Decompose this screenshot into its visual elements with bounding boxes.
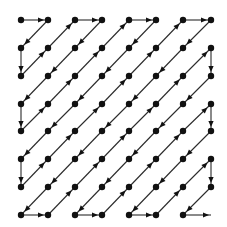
grid-point [72,156,78,162]
arrow-head-icon [201,17,207,22]
grid-point [126,128,132,134]
grid-point [126,184,132,190]
grid-point [99,45,105,51]
grid-point [126,212,132,218]
grid-point [99,73,105,79]
grid-point [45,184,51,190]
grid-point [126,73,132,79]
arrow-head-icon [38,212,44,217]
grid-point [180,101,186,107]
grid-point [180,212,186,218]
grid-point [208,156,214,162]
grid-point [208,101,214,107]
arrow-head-icon [208,121,213,127]
arrow-head-icon [18,66,23,72]
grid-point [72,101,78,107]
grid-point [153,17,159,23]
grid-point [208,45,214,51]
grid-point [126,101,132,107]
grid-point [72,73,78,79]
grid-point [45,212,51,218]
grid-point [208,184,214,190]
grid-point [18,45,24,51]
arrow-head-icon [18,177,23,183]
grid-point [72,45,78,51]
grid-point [45,156,51,162]
grid-point [126,45,132,51]
arrow-head-icon [146,212,152,217]
grid-point [72,128,78,134]
grid-point [153,184,159,190]
zigzag-scan-diagram: Zigzag scan order (8x8 grid) [0,0,227,227]
grid-point [45,17,51,23]
arrow-head-icon [146,17,152,22]
grid-point [72,184,78,190]
arrow-head-icon [18,121,23,127]
grid-point [153,212,159,218]
arrow-head-icon [92,17,98,22]
grid-point [99,128,105,134]
grid-point [208,17,214,23]
grid-point [153,73,159,79]
grid-point [153,156,159,162]
grid-point [153,45,159,51]
grid-point [99,101,105,107]
grid-point [18,101,24,107]
grid-point [153,101,159,107]
grid-point [18,156,24,162]
grid-point [45,101,51,107]
grid-point [126,17,132,23]
grid-point [180,184,186,190]
arrow-head-icon [38,17,44,22]
grid-point [72,17,78,23]
grid-point [18,128,24,134]
arrow-head-icon [208,66,213,72]
grid-point [45,128,51,134]
grid-point [18,17,24,23]
grid-point [18,184,24,190]
grid-point [180,17,186,23]
grid-point [99,184,105,190]
grid-point [99,156,105,162]
grid-point [208,128,214,134]
grid-point [18,73,24,79]
grid-point [153,128,159,134]
grid-point [99,212,105,218]
grid-point [126,156,132,162]
grid-point [45,73,51,79]
grid-point [72,212,78,218]
arrow-head-icon [203,212,209,217]
grid-point [208,73,214,79]
grid-point [180,73,186,79]
arrow-head-icon [92,212,98,217]
arrow-head-icon [208,177,213,183]
grid-point [18,212,24,218]
grid-point [180,156,186,162]
grid-point [180,45,186,51]
grid-point [99,17,105,23]
grid-point [45,45,51,51]
grid-point [180,128,186,134]
